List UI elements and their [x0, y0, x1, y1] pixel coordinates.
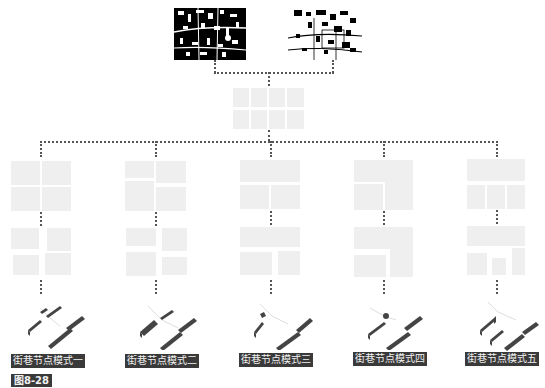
pattern1-label: 街巷节点模式一	[11, 354, 85, 368]
pattern2-label: 街巷节点模式二	[125, 354, 199, 368]
pattern1-grid-upper	[11, 161, 71, 211]
connector-col2-top	[155, 141, 157, 157]
pattern4-grid-upper	[354, 160, 413, 210]
connector-col2-mid	[155, 212, 157, 226]
merged-block-grid	[233, 88, 305, 130]
connector-col1-bottom	[40, 280, 42, 294]
pattern3-label: 街巷节点模式三	[239, 353, 313, 367]
connector-col4-bottom	[383, 280, 385, 294]
connector-col4-top	[383, 141, 385, 157]
pattern4-label: 街巷节点模式四	[353, 352, 427, 366]
pattern4-axonometric	[362, 298, 432, 350]
connector-col5-mid	[496, 210, 498, 224]
pattern5-grid-upper	[467, 159, 525, 209]
connector-to-merged	[268, 72, 270, 86]
pattern2-axonometric	[134, 298, 204, 350]
pattern3-grid-upper	[240, 160, 300, 210]
figure-ground-map-right	[288, 8, 362, 60]
pattern3-axonometric	[248, 298, 318, 350]
connector-maps-join	[214, 72, 334, 74]
connector-col3-top	[270, 141, 272, 157]
figure-number: 图8-28	[11, 374, 52, 387]
connector-col3-bottom	[270, 280, 272, 294]
pattern5-axonometric	[476, 296, 545, 352]
connector-branch-horizontal	[40, 141, 498, 143]
connector-col3-mid	[270, 211, 272, 225]
pattern2-grid-upper	[125, 161, 187, 211]
connector-col5-bottom	[496, 280, 498, 294]
pattern2-grid-lower	[126, 228, 188, 278]
pattern5-label: 街巷节点模式五	[465, 352, 539, 366]
pattern1-axonometric	[20, 298, 90, 350]
connector-merged-down	[268, 130, 270, 141]
pattern1-grid-lower	[11, 228, 71, 278]
connector-col1-mid	[40, 212, 42, 226]
figure-ground-map-left	[174, 8, 246, 60]
pattern3-grid-lower	[240, 227, 300, 279]
connector-col5-top	[496, 141, 498, 157]
connector-col1-top	[40, 141, 42, 157]
pattern4-grid-lower	[354, 227, 413, 279]
connector-col4-mid	[383, 211, 385, 225]
connector-col2-bottom	[155, 280, 157, 294]
pattern5-grid-lower	[467, 226, 525, 278]
